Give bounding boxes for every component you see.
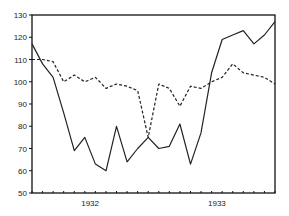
series-solid-line bbox=[32, 22, 275, 171]
series-lines bbox=[32, 22, 275, 171]
x-tick-label: 1933 bbox=[208, 199, 226, 208]
y-tick-label: 130 bbox=[14, 11, 28, 20]
y-tick-label: 90 bbox=[18, 100, 27, 109]
y-axis: 5060708090100110120130 bbox=[14, 11, 32, 198]
y-tick-label: 100 bbox=[14, 78, 28, 87]
y-tick-label: 110 bbox=[14, 56, 27, 65]
series-dashed-line bbox=[32, 60, 275, 138]
y-tick-label: 120 bbox=[14, 33, 28, 42]
y-tick-label: 60 bbox=[18, 167, 27, 176]
line-chart: 5060708090100110120130 19321933 bbox=[0, 0, 289, 216]
y-tick-label: 80 bbox=[18, 122, 27, 131]
y-tick-label: 50 bbox=[18, 189, 27, 198]
y-tick-label: 70 bbox=[18, 145, 27, 154]
plot-frame bbox=[32, 15, 275, 193]
plot-border bbox=[32, 15, 275, 193]
x-tick-label: 1932 bbox=[81, 199, 99, 208]
